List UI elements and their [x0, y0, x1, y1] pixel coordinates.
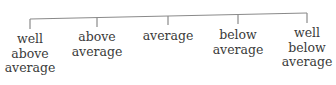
label-line: average [62, 45, 132, 60]
label-line: well [0, 32, 65, 47]
label-line: average [272, 55, 336, 70]
label-line: well [272, 26, 336, 41]
label-above-average: above average [62, 30, 132, 59]
label-line: below [272, 41, 336, 56]
label-line: average [0, 61, 65, 76]
label-line: below [203, 28, 273, 43]
label-average: average [133, 29, 203, 44]
label-well-above-average: well above average [0, 32, 65, 76]
label-line: above [62, 30, 132, 45]
label-line: average [133, 29, 203, 44]
label-well-below-average: well below average [272, 26, 336, 70]
label-below-average: below average [203, 28, 273, 57]
label-line: above [0, 47, 65, 62]
label-line: average [203, 43, 273, 58]
